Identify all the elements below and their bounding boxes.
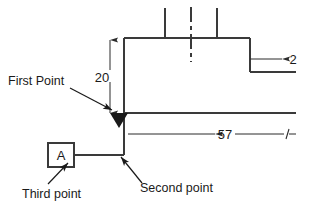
datum-triangle-marker (110, 113, 128, 128)
dimension-2: 2 (250, 52, 297, 67)
dim-57-label: 57 (218, 127, 232, 142)
dim-57-tick-right (286, 129, 289, 139)
technical-drawing: 20 57 2 A First Point (0, 0, 312, 209)
drawing-canvas: 20 57 2 A First Point (0, 0, 312, 209)
second-point-leader (121, 157, 142, 183)
callout-third-point: Third point (22, 163, 82, 201)
datum-box-label: A (57, 148, 66, 163)
filled-triangle-icon (110, 113, 128, 128)
dim-20-label: 20 (95, 70, 109, 85)
first-point-leader (70, 88, 112, 110)
part-outline (74, 38, 296, 155)
dimension-57: 57 (124, 113, 296, 145)
second-point-label: Second point (140, 181, 214, 195)
dim-2-label: 2 (289, 52, 296, 67)
first-point-label: First Point (8, 74, 65, 88)
datum-box-a: A (48, 143, 74, 167)
callout-second-point: Second point (121, 157, 214, 195)
third-point-label: Third point (22, 187, 82, 201)
